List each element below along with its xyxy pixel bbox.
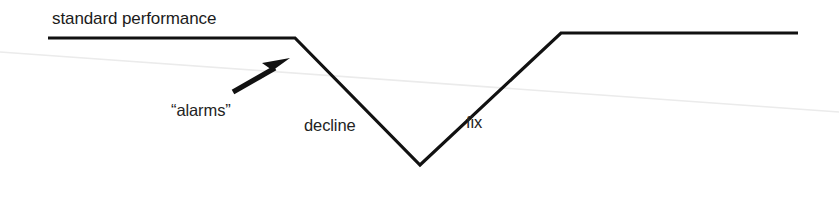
- performance-line-chart: [0, 0, 839, 200]
- arrow-head: [258, 58, 290, 81]
- arrow-shaft: [233, 68, 275, 92]
- label-fix: fix: [466, 114, 482, 131]
- label-decline: decline: [304, 117, 356, 134]
- label-standard-performance: standard performance: [52, 10, 216, 27]
- performance-polyline: [48, 33, 798, 165]
- diagram-canvas: standard performance “alarms” decline fi…: [0, 0, 839, 200]
- label-alarms: “alarms”: [171, 102, 231, 119]
- alarms-pointer-arrow: [233, 58, 290, 92]
- scanner-streak-line: [0, 52, 839, 112]
